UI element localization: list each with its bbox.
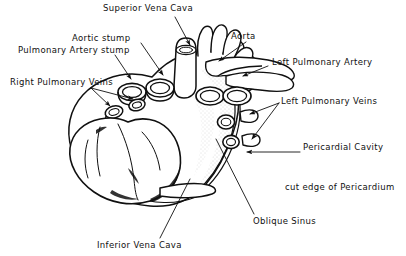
aortic-stump-ring [146, 79, 174, 101]
label-aorta: Aorta [231, 31, 256, 41]
label-right-pulmonary-veins: Right Pulmonary Veins [10, 77, 113, 87]
label-aortic-stump: Aortic stump [72, 33, 130, 43]
label-left-pulmonary-veins: Left Pulmonary Veins [281, 96, 377, 106]
label-oblique-sinus: Oblique Sinus [253, 216, 316, 226]
label-superior-vena-cava: Superior Vena Cava [103, 3, 193, 13]
label-left-pulmonary-artery: Left Pulmonary Artery [272, 57, 372, 67]
left-pulmonary-vein-cut-cuffs [240, 110, 260, 146]
heart-pericardium-line-drawing [0, 0, 406, 256]
label-pulmonary-artery-stump: Pulmonary Artery stump [18, 45, 130, 55]
inferior-vena-cava-stump [160, 184, 215, 198]
label-inferior-vena-cava: Inferior Vena Cava [97, 240, 182, 250]
label-cut-edge-of-pericardium: cut edge of Pericardium [285, 182, 395, 192]
anatomical-diagram-figure: Superior Vena Cava Aortic stump Pulmonar… [0, 0, 406, 256]
leader-aortic-stump [141, 43, 163, 75]
label-pericardial-cavity: Pericardial Cavity [303, 142, 383, 152]
superior-vena-cava-stump [174, 38, 196, 98]
leader-oblique-sinus [216, 139, 254, 214]
